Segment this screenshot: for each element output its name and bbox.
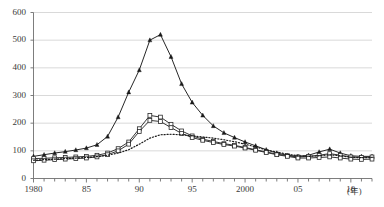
y-axis-tick-label-600: 600: [0, 7, 26, 17]
x-axis-tick-label-1990: 90: [119, 184, 159, 194]
marker-triangle-1993: [169, 54, 173, 58]
x-axis-tick-label-2000: 2000: [225, 184, 265, 194]
marker-square-2002: [264, 151, 268, 155]
x-axis-unit-label: (年): [347, 184, 362, 196]
marker-triangle-1998: [222, 131, 226, 135]
marker-square-1996: [201, 138, 205, 142]
marker-square-2008: [328, 155, 332, 159]
marker-square-1989: [127, 142, 131, 146]
marker-square-2005: [296, 156, 300, 160]
marker-square-1991: [148, 114, 152, 118]
x-axis-tick-label-1985: 85: [66, 184, 106, 194]
y-axis-tick-label-400: 400: [0, 62, 26, 72]
marker-triangle-1992: [158, 32, 162, 36]
marker-square-1992: [159, 115, 163, 119]
marker-square-1988: [116, 149, 120, 153]
marker-square-1991: [148, 119, 152, 123]
chart-plot-area: [0, 0, 384, 207]
marker-square-1993: [169, 126, 173, 130]
marker-square-2003: [275, 153, 279, 157]
x-axis-tick-label-2005: 05: [278, 184, 318, 194]
marker-square-2001: [254, 148, 258, 152]
y-axis-tick-label-500: 500: [0, 34, 26, 44]
marker-square-2009: [338, 156, 342, 160]
marker-square-1999: [233, 144, 237, 148]
marker-triangle-2008: [328, 147, 332, 151]
marker-triangle-1994: [180, 82, 184, 86]
y-axis-tick-label-0: 0: [0, 173, 26, 183]
x-axis-tick-label-1980: 1980: [14, 184, 54, 194]
marker-triangle-1988: [116, 115, 120, 119]
marker-triangle-1990: [137, 68, 141, 72]
marker-square-2004: [285, 154, 289, 158]
marker-square-1997: [211, 141, 215, 145]
marker-square-1998: [222, 143, 226, 147]
y-axis-tick-label-200: 200: [0, 117, 26, 127]
y-axis-tick-label-300: 300: [0, 90, 26, 100]
marker-square-1992: [159, 120, 163, 124]
x-axis-tick-label-1995: 95: [172, 184, 212, 194]
marker-triangle-1989: [127, 90, 131, 94]
y-axis-tick-label-100: 100: [0, 145, 26, 155]
marker-square-2000: [243, 146, 247, 150]
land-price-index-chart: 0100200300400500600 198085909520000510(年…: [0, 0, 384, 207]
marker-square-1990: [137, 130, 141, 134]
marker-triangle-1986: [95, 142, 99, 146]
